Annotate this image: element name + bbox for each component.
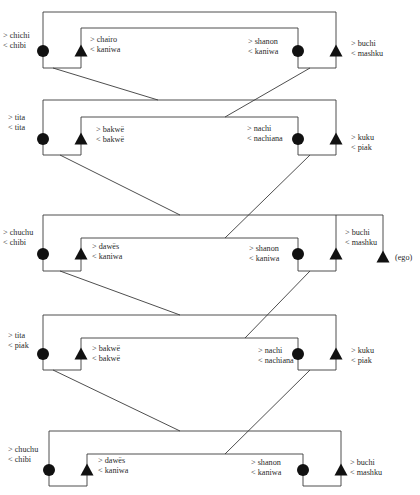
descent-line (60, 155, 180, 215)
sibling-line-inner (81, 117, 298, 139)
descent-line (225, 68, 310, 117)
descent-line (245, 271, 310, 338)
sibling-line-outer (43, 100, 336, 139)
marriage-bracket-right (298, 354, 336, 370)
kinship-lines (43, 12, 383, 486)
female-circle-icon (297, 464, 309, 476)
male-triangle-icon (335, 464, 348, 476)
marriage-bracket-left (43, 51, 81, 68)
descent-line (225, 155, 310, 238)
sibling-line-inner (87, 454, 303, 470)
female-circle-icon (43, 464, 55, 476)
female-circle-icon (292, 45, 304, 57)
male-triangle-icon (75, 248, 88, 260)
marriage-bracket-left (43, 254, 81, 271)
female-circle-icon (292, 248, 304, 260)
descent-line (53, 370, 180, 431)
descent-line (53, 68, 158, 100)
male-triangle-icon (330, 348, 343, 360)
female-circle-icon (37, 133, 49, 145)
sibling-line-inner (81, 238, 298, 254)
female-circle-icon (292, 133, 304, 145)
female-circle-icon (37, 348, 49, 360)
marriage-bracket-left (49, 470, 87, 486)
male-triangle-icon (75, 133, 88, 145)
male-triangle-icon (75, 45, 88, 57)
female-circle-icon (292, 348, 304, 360)
marriage-bracket-right (298, 51, 336, 68)
marriage-bracket-right (298, 254, 336, 271)
male-triangle-icon (330, 45, 343, 57)
sibling-line-outer (43, 215, 383, 254)
male-triangle-icon (81, 464, 94, 476)
descent-line (60, 271, 180, 315)
female-circle-icon (37, 248, 49, 260)
person-symbols (37, 45, 390, 477)
male-triangle-icon (75, 348, 88, 360)
kinship-diagram (0, 0, 420, 495)
female-circle-icon (37, 45, 49, 57)
marriage-bracket-left (43, 354, 81, 370)
sibling-line-outer (43, 12, 336, 51)
sibling-line-outer (43, 315, 336, 354)
descent-lines (53, 68, 310, 454)
sibling-line-inner (81, 338, 298, 354)
descent-line (225, 370, 310, 454)
marriage-bracket-left (43, 139, 81, 155)
male-triangle-icon (330, 248, 343, 260)
marriage-bracket-right (303, 470, 341, 486)
male-triangle-icon (330, 133, 343, 145)
ego-triangle-icon (377, 251, 390, 263)
sibling-line-outer (49, 431, 341, 470)
marriage-bracket-right (298, 139, 336, 155)
sibling-line-inner (81, 28, 298, 51)
